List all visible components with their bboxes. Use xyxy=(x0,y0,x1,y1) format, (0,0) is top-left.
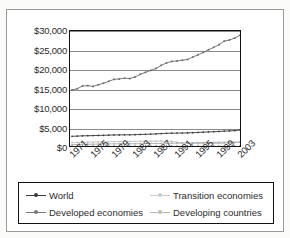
series-marker xyxy=(92,86,94,88)
series-marker xyxy=(229,130,231,132)
series-marker xyxy=(223,130,225,132)
series-marker xyxy=(218,44,220,46)
series-marker xyxy=(181,132,183,134)
series-marker xyxy=(218,142,220,144)
series-marker xyxy=(187,132,189,134)
series-marker xyxy=(150,133,152,135)
series-marker xyxy=(160,133,162,135)
series-marker xyxy=(103,82,105,84)
series-marker xyxy=(103,134,105,136)
series-marker xyxy=(134,76,136,78)
series-marker xyxy=(118,78,120,80)
series-marker xyxy=(118,134,120,136)
series-marker xyxy=(76,135,78,137)
x-axis-labels: 197119751979198319871991199519992003 xyxy=(65,150,265,178)
y-axis-tick-label: $25,000 xyxy=(11,46,67,55)
series-marker xyxy=(150,140,152,142)
y-axis-tick-label: $10,000 xyxy=(11,104,67,113)
series-marker xyxy=(113,141,115,143)
chart-screenshot: $30,000$25,000$20,000$15,000$10,000$5,00… xyxy=(0,0,290,238)
legend-label: World xyxy=(49,190,74,201)
y-axis-tick-label: $5,000 xyxy=(11,124,67,133)
chart-plot-area: $30,000$25,000$20,000$15,000$10,000$5,00… xyxy=(7,10,285,178)
series-marker xyxy=(82,85,84,87)
series-marker xyxy=(71,135,73,137)
series-marker xyxy=(108,141,110,143)
series-marker xyxy=(176,132,178,134)
series-marker xyxy=(192,56,194,58)
series-marker xyxy=(113,79,115,81)
series-marker xyxy=(202,52,204,54)
series-marker xyxy=(155,140,157,142)
series-marker xyxy=(87,135,89,137)
legend-item[interactable]: Developing countries xyxy=(149,205,262,219)
series-marker xyxy=(71,142,73,144)
series-marker xyxy=(155,133,157,135)
series-marker xyxy=(124,134,126,136)
series-marker xyxy=(176,142,178,144)
series-marker xyxy=(197,142,199,144)
y-axis-tick-label: $15,000 xyxy=(11,85,67,94)
series-marker xyxy=(192,132,194,134)
series-marker xyxy=(71,89,73,91)
legend-marker-icon xyxy=(149,190,171,200)
y-axis-labels: $30,000$25,000$20,000$15,000$10,000$5,00… xyxy=(11,26,67,146)
series-marker xyxy=(139,134,141,136)
y-axis-tick-label: $0 xyxy=(11,143,67,152)
series-marker xyxy=(176,60,178,62)
series-marker xyxy=(218,131,220,133)
series-marker xyxy=(108,80,110,82)
legend-marker-icon xyxy=(149,207,171,217)
series-marker xyxy=(171,61,173,63)
legend-item[interactable]: Developed economies xyxy=(25,205,143,219)
series-marker xyxy=(134,141,136,143)
series-marker xyxy=(76,88,78,90)
legend-label: Developing countries xyxy=(173,207,262,218)
legend-marker-icon xyxy=(25,190,47,200)
series-marker xyxy=(197,54,199,56)
series-marker xyxy=(171,141,173,143)
series-marker xyxy=(124,77,126,79)
series-marker xyxy=(213,47,215,49)
series-marker xyxy=(166,62,168,64)
series-marker xyxy=(129,141,131,143)
series-marker xyxy=(87,85,89,87)
plot-box xyxy=(69,30,241,147)
series-marker xyxy=(92,141,94,143)
series-marker xyxy=(97,84,99,86)
series-marker xyxy=(134,143,136,145)
series-marker xyxy=(234,37,236,39)
series-marker xyxy=(223,40,225,42)
series-marker xyxy=(108,134,110,136)
series-marker xyxy=(134,134,136,136)
legend-item[interactable]: World xyxy=(25,188,74,202)
series-marker xyxy=(166,132,168,134)
legend-label: Developed economies xyxy=(49,207,143,218)
series-marker xyxy=(82,135,84,137)
series-marker xyxy=(155,68,157,70)
series-marker xyxy=(202,131,204,133)
series-marker xyxy=(160,64,162,66)
series-marker xyxy=(150,70,152,72)
series-marker xyxy=(239,34,241,36)
series-marker xyxy=(239,129,241,131)
series-marker xyxy=(234,130,236,132)
legend-item[interactable]: Transition economies xyxy=(149,188,263,202)
series-line xyxy=(72,35,240,90)
series-marker xyxy=(171,132,173,134)
series-marker xyxy=(92,135,94,137)
y-axis-tick-label: $30,000 xyxy=(11,26,67,35)
series-marker xyxy=(208,131,210,133)
y-axis-tick-label: $20,000 xyxy=(11,65,67,74)
series-marker xyxy=(145,133,147,135)
series-marker xyxy=(239,141,241,143)
series-marker xyxy=(181,59,183,61)
series-marker xyxy=(97,135,99,137)
series-marker xyxy=(208,49,210,51)
series-marker xyxy=(129,78,131,80)
series-marker xyxy=(155,143,157,145)
legend-marker-icon xyxy=(25,207,47,217)
series-marker xyxy=(187,59,189,61)
legend-label: Transition economies xyxy=(173,190,263,201)
series-marker xyxy=(213,131,215,133)
